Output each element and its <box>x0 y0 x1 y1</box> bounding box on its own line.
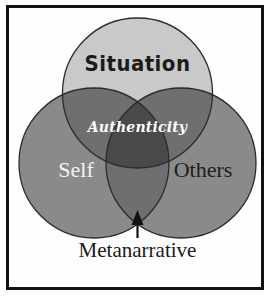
label-metanarrative: Metanarrative <box>0 240 275 261</box>
label-others: Others <box>160 159 246 181</box>
caption-sliver <box>10 295 265 302</box>
venn-canvas: Situation Authenticity Self Others Metan… <box>0 0 275 302</box>
label-situation: Situation <box>8 54 267 75</box>
label-authenticity: Authenticity <box>0 120 275 134</box>
label-self: Self <box>36 159 116 181</box>
figure-root: Situation Authenticity Self Others Metan… <box>0 0 275 302</box>
